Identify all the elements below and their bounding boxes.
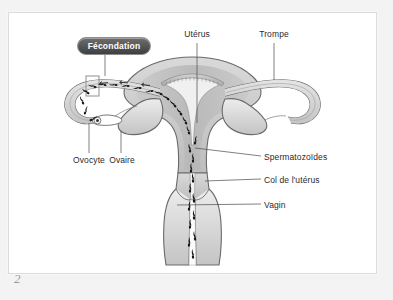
fecondation-badge-label: Fécondation [88, 41, 141, 51]
label-ovocyte: Ovocyte [73, 155, 105, 165]
anatomy-diagram [9, 13, 376, 273]
figure-panel: Fécondation Utérus Trompe Ovocyte Ovaire… [8, 12, 377, 274]
left-ovary [92, 99, 162, 135]
label-col-uterus: Col de l'utérus [264, 175, 320, 185]
ovocyte-egg [92, 115, 121, 125]
leader-col [205, 179, 261, 181]
fecondation-badge[interactable]: Fécondation [77, 37, 151, 55]
label-vagin: Vagin [264, 200, 286, 210]
page-background: Fécondation Utérus Trompe Ovocyte Ovaire… [0, 0, 393, 300]
label-trompe: Trompe [259, 29, 289, 39]
label-spermatozoides: Spermatozoïdes [264, 152, 327, 162]
page-number: 2 [14, 271, 21, 287]
label-uterus: Utérus [184, 29, 210, 39]
label-ovaire: Ovaire [109, 155, 135, 165]
